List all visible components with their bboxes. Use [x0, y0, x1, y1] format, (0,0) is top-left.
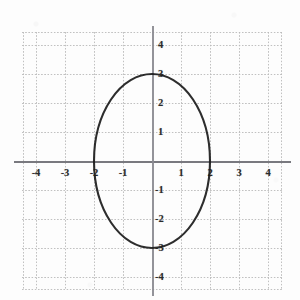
- plot-area: -4 -3 -2 -1 1 2 3 4 4 3 2 1 -1 -2 -3 -4: [22, 32, 283, 290]
- ellipse-curve: [22, 32, 283, 290]
- ellipse-path: [94, 74, 210, 248]
- coordinate-graph-figure: -4 -3 -2 -1 1 2 3 4 4 3 2 1 -1 -2 -3 -4: [0, 0, 300, 300]
